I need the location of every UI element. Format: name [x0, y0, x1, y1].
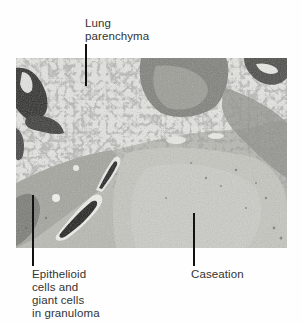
label-epithelioid-giant-cells: Epithelioid cells and giant cells in gra… [32, 268, 100, 320]
micrograph-image [16, 58, 287, 248]
leader-line-epithelioid [32, 195, 34, 266]
label-caseation: Caseation [191, 268, 244, 281]
label-lung-parenchyma: Lung parenchyma [85, 17, 149, 43]
leader-line-lung-parenchyma [85, 44, 87, 86]
figure: Lung parenchyma Epithelioid cells and gi… [0, 0, 302, 323]
leader-line-caseation [193, 213, 195, 266]
